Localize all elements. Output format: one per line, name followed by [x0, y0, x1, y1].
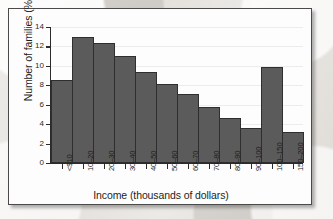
y-tick-mark — [46, 27, 51, 28]
y-tick-mark — [46, 46, 51, 47]
x-tick-mark — [104, 164, 105, 169]
y-tick-label: 12 — [25, 42, 44, 50]
y-tick-mark — [46, 85, 51, 86]
y-tick-mark — [46, 105, 51, 106]
x-tick-mark — [83, 164, 84, 169]
x-tick-mark — [125, 164, 126, 169]
x-tick-label: 100–150 — [275, 142, 284, 171]
x-tick-label: 150–200 — [296, 142, 305, 171]
y-tick-label: 8 — [25, 81, 44, 89]
x-tick-mark — [62, 164, 63, 169]
x-tick-label: 80–90 — [233, 151, 242, 171]
x-tick-label: 20–30 — [107, 151, 116, 171]
y-tick-label: 6 — [25, 101, 44, 109]
x-tick-label: 30–40 — [128, 151, 137, 171]
x-tick-label: 60–70 — [191, 151, 200, 171]
y-tick-mark — [46, 163, 51, 164]
y-axis-ticks: 02468101214 — [9, 9, 333, 219]
x-tick-mark — [272, 164, 273, 169]
x-tick-mark — [251, 164, 252, 169]
y-tick-mark — [46, 144, 51, 145]
x-axis-title: Income (thousands of dollars) — [9, 189, 313, 201]
y-tick-mark — [46, 124, 51, 125]
histogram-figure: Number of families (%) 02468101214 <$101… — [9, 9, 311, 204]
x-tick-label: 70–80 — [212, 151, 221, 171]
y-tick-label: 4 — [25, 120, 44, 128]
y-tick-label: 14 — [25, 23, 44, 31]
x-tick-mark — [188, 164, 189, 169]
x-tick-mark — [230, 164, 231, 169]
y-tick-mark — [46, 66, 51, 67]
x-tick-label: 90–100 — [254, 147, 263, 171]
x-tick-label: 10–20 — [86, 151, 95, 171]
x-tick-mark — [146, 164, 147, 169]
x-tick-mark — [293, 164, 294, 169]
y-tick-label: 0 — [25, 159, 44, 167]
x-tick-label: 40–50 — [149, 151, 158, 171]
y-tick-label: 2 — [25, 140, 44, 148]
x-tick-label: 50–60 — [170, 151, 179, 171]
chart-panel: Number of families (%) 02468101214 <$101… — [8, 8, 312, 205]
x-tick-mark — [167, 164, 168, 169]
x-tick-label: <$10 — [65, 154, 74, 171]
y-tick-label: 10 — [25, 62, 44, 70]
x-tick-mark — [209, 164, 210, 169]
